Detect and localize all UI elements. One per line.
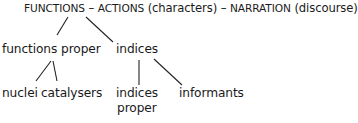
edge-functions-proper-to-catalysers: [53, 61, 57, 81]
node-functions-proper: functions proper: [2, 42, 101, 56]
root-node: FUNCTIONS – ACTIONS (characters) – NARRA…: [24, 1, 358, 15]
root-discourse: (discourse): [291, 1, 358, 15]
node-indices-proper-line2: proper: [117, 101, 157, 115]
node-nuclei: nuclei: [2, 86, 38, 100]
node-indices-proper-line1: indices: [116, 86, 158, 100]
edge-functions-to-indices: [86, 17, 113, 42]
root-narration: NARRATION: [230, 2, 291, 14]
edge-indices-to-informants: [154, 59, 182, 85]
root-functions: FUNCTIONS: [24, 2, 85, 14]
node-indices: indices: [116, 42, 158, 56]
edge-functions-to-functions-proper: [57, 17, 68, 35]
node-catalysers: catalysers: [41, 86, 102, 100]
node-informants: informants: [179, 86, 244, 100]
root-actions: ACTIONS: [98, 2, 144, 14]
edge-functions-proper-to-nuclei: [36, 61, 51, 81]
root-characters: (characters) –: [144, 1, 230, 15]
root-sep-1: –: [85, 1, 98, 15]
